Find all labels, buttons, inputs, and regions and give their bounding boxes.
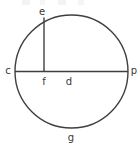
geometry-figure: e c f d p g: [0, 0, 140, 148]
label-p: p: [131, 65, 137, 76]
label-g: g: [68, 132, 74, 143]
label-e: e: [39, 6, 45, 17]
label-d: d: [66, 76, 72, 87]
label-f: f: [42, 76, 46, 87]
circle-diagram-canvas: e c f d p g: [0, 0, 140, 148]
label-c: c: [5, 65, 11, 76]
